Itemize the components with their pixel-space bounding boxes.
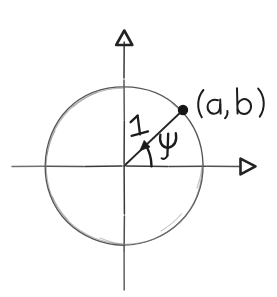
horizontal-axis bbox=[12, 159, 256, 175]
point-coordinate-label bbox=[198, 88, 264, 118]
radius-segment bbox=[124, 110, 183, 166]
angle-label-psi bbox=[160, 133, 176, 159]
unit-circle-figure: (a, b) 1 ψ Unit circle with point (a, b)… bbox=[0, 0, 277, 297]
point-on-circle bbox=[178, 105, 187, 114]
figure-canvas bbox=[0, 0, 277, 297]
radius-length-label bbox=[131, 116, 148, 136]
angle-psi-arc bbox=[140, 140, 152, 166]
axes-group bbox=[12, 31, 256, 291]
horizontal-axis-arrowhead bbox=[241, 159, 256, 175]
